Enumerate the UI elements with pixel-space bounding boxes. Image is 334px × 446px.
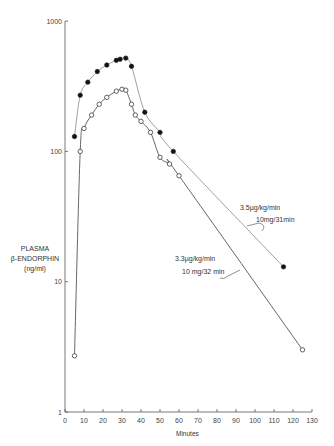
x-tick-label: 90	[232, 417, 240, 424]
y-axis-label-line-1: PLASMA	[0, 244, 70, 254]
open-circle-marker	[105, 95, 109, 99]
series-curve-0	[75, 58, 284, 267]
open-circle-marker	[177, 174, 181, 178]
filled-circle-marker	[281, 265, 285, 269]
y-axis-label-line-3: (ng/ml)	[0, 264, 70, 274]
annotation-series-open-line2: 10 mg/32 min	[182, 267, 224, 277]
x-tick-label: 100	[249, 417, 261, 424]
open-circle-marker	[72, 354, 76, 358]
open-circle-marker	[158, 155, 162, 159]
open-circle-marker	[148, 130, 152, 134]
open-circle-marker	[139, 119, 143, 123]
open-circle-marker	[97, 102, 101, 106]
open-circle-marker	[78, 149, 82, 153]
x-tick-label: 50	[156, 417, 164, 424]
filled-circle-marker	[86, 80, 90, 84]
filled-circle-marker	[143, 110, 147, 114]
y-tick-label: 10	[54, 278, 62, 285]
y-axis-label-line-2: β-ENDORPHIN	[0, 254, 70, 264]
open-circle-marker	[133, 113, 137, 117]
filled-circle-marker	[158, 130, 162, 134]
open-circle-marker	[129, 102, 133, 106]
y-axis-label: PLASMA β-ENDORPHIN (ng/ml)	[0, 244, 70, 274]
open-circle-marker	[114, 89, 118, 93]
x-tick-label: 120	[287, 417, 299, 424]
annotation-series-filled-line1: 3.5µg/kg/min	[240, 203, 280, 213]
y-tick-label: 1	[58, 409, 62, 416]
filled-circle-marker	[118, 57, 122, 61]
open-circle-marker	[124, 88, 128, 92]
open-circle-marker	[167, 162, 171, 166]
x-tick-label: 80	[213, 417, 221, 424]
x-axis-title: Minutes	[176, 430, 199, 437]
filled-circle-marker	[129, 64, 133, 68]
x-tick-label: 70	[194, 417, 202, 424]
filled-circle-marker	[78, 93, 82, 97]
x-tick-label: 10	[80, 417, 88, 424]
x-tick-label: 40	[137, 417, 145, 424]
open-circle-marker	[300, 348, 304, 352]
x-tick-label: 110	[268, 417, 279, 424]
annotation-series-filled-line2: 10mg/31min	[256, 215, 295, 225]
filled-circle-marker	[124, 56, 128, 60]
x-tick-label: 30	[118, 417, 126, 424]
x-tick-label: 130	[306, 417, 318, 424]
open-circle-marker	[89, 113, 93, 117]
x-tick-label: 0	[63, 417, 67, 424]
filled-circle-marker	[171, 149, 175, 153]
filled-circle-marker	[72, 134, 76, 138]
x-tick-label: 20	[99, 417, 107, 424]
y-tick-label: 1000	[46, 18, 62, 25]
filled-circle-marker	[105, 63, 109, 67]
open-circle-marker	[82, 126, 86, 130]
filled-circle-marker	[95, 69, 99, 73]
x-tick-label: 60	[175, 417, 183, 424]
y-tick-label: 100	[50, 148, 62, 155]
annotation-series-open-line1: 3.3µg/kg/min	[175, 254, 215, 264]
